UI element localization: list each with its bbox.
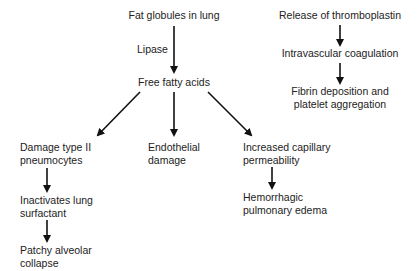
node-thromboplastin: Release of thromboplastin — [279, 9, 401, 22]
line-1: Endothelial — [148, 141, 200, 154]
arrows-layer — [0, 0, 419, 271]
node-hemorrhagic-edema: Hemorrhagic pulmonary edema — [243, 191, 327, 217]
line-1: Fibrin deposition and — [291, 85, 388, 98]
node-free-fatty-acids: Free fatty acids — [138, 76, 210, 89]
line-2: collapse — [20, 257, 92, 270]
line-1: Damage type II — [20, 141, 91, 154]
line-1: Hemorrhagic — [243, 191, 327, 204]
line-2: platelet aggregation — [291, 98, 388, 111]
line-2: permeability — [243, 154, 331, 167]
line-1: Patchy alveolar — [20, 244, 92, 257]
line-2: pulmonary edema — [243, 204, 327, 217]
arrow-ffa-to-permeability — [208, 92, 251, 135]
node-fat-globules: Fat globules in lung — [128, 9, 219, 22]
line-1: Inactivates lung — [20, 194, 93, 207]
line-2: pneumocytes — [20, 154, 91, 167]
line-2: surfactant — [20, 207, 93, 220]
node-patchy-collapse: Patchy alveolar collapse — [20, 244, 92, 270]
node-fibrin-platelet: Fibrin deposition and platelet aggregati… — [291, 85, 388, 111]
node-intravascular-coagulation: Intravascular coagulation — [282, 47, 399, 60]
node-damage-pneumocytes: Damage type II pneumocytes — [20, 141, 91, 167]
node-capillary-permeability: Increased capillary permeability — [243, 141, 331, 167]
line-2: damage — [148, 154, 200, 167]
node-endothelial-damage: Endothelial damage — [148, 141, 200, 167]
line-1: Increased capillary — [243, 141, 331, 154]
node-inactivates-surfactant: Inactivates lung surfactant — [20, 194, 93, 220]
arrow-ffa-to-pneumocytes — [98, 92, 140, 135]
edge-label-lipase: Lipase — [137, 43, 168, 56]
